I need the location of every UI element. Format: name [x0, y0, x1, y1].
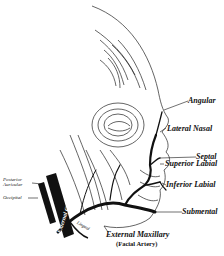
label-submental: Submental — [182, 208, 218, 216]
label-lateral-nasal: Lateral Nasal — [167, 125, 212, 133]
label-external-maxillary: External Maxillary — [106, 231, 169, 239]
label-posterior-auricular-line2: Auricular — [3, 182, 22, 187]
label-inferior-labial: Inferior Labial — [166, 181, 216, 189]
label-occipital: Occipital — [3, 195, 22, 200]
label-facial-artery: (Facial Artery) — [116, 241, 157, 248]
facial-arteries-diagram: External Carotid Lingual Angular Lateral… — [0, 0, 224, 256]
label-superior-labial: Superior Labial — [165, 160, 217, 168]
label-angular: Angular — [188, 97, 216, 105]
